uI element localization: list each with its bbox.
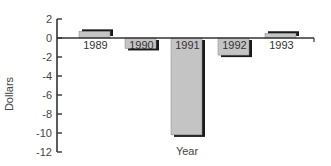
y-tick-label: -2 xyxy=(42,51,52,63)
y-axis-label: Dollars xyxy=(3,76,15,111)
y-tick-label: 2 xyxy=(46,13,52,25)
category-label: 1989 xyxy=(83,39,107,51)
bar-chart: 20-2-4-6-8-10-12 19891990199119921993 Do… xyxy=(0,0,331,166)
y-tick: -10 xyxy=(36,127,62,139)
y-tick: 2 xyxy=(46,13,62,25)
y-tick-label: -6 xyxy=(42,89,52,101)
category-label: 1990 xyxy=(129,39,153,51)
category-label: 1991 xyxy=(175,39,199,51)
y-tick-label: -12 xyxy=(36,146,52,158)
y-tick: -4 xyxy=(42,70,62,82)
category-labels: 19891990199119921993 xyxy=(83,39,293,51)
y-tick-label: -4 xyxy=(42,70,52,82)
bar-1991 xyxy=(171,38,205,137)
category-label: 1992 xyxy=(222,39,246,51)
category-label: 1993 xyxy=(269,39,293,51)
bar-1989 xyxy=(79,29,113,38)
y-tick: -6 xyxy=(42,89,62,101)
x-axis-label: Year xyxy=(176,145,199,157)
y-axis: 20-2-4-6-8-10-12 xyxy=(36,13,62,158)
y-tick: -12 xyxy=(36,146,62,158)
bar-1993 xyxy=(265,31,299,38)
y-tick: -8 xyxy=(42,108,62,120)
y-tick-label: -10 xyxy=(36,127,52,139)
y-tick-label: 0 xyxy=(46,32,52,44)
y-tick: -2 xyxy=(42,51,62,63)
y-tick-label: -8 xyxy=(42,108,52,120)
chart-canvas: 20-2-4-6-8-10-12 19891990199119921993 Do… xyxy=(0,0,331,166)
